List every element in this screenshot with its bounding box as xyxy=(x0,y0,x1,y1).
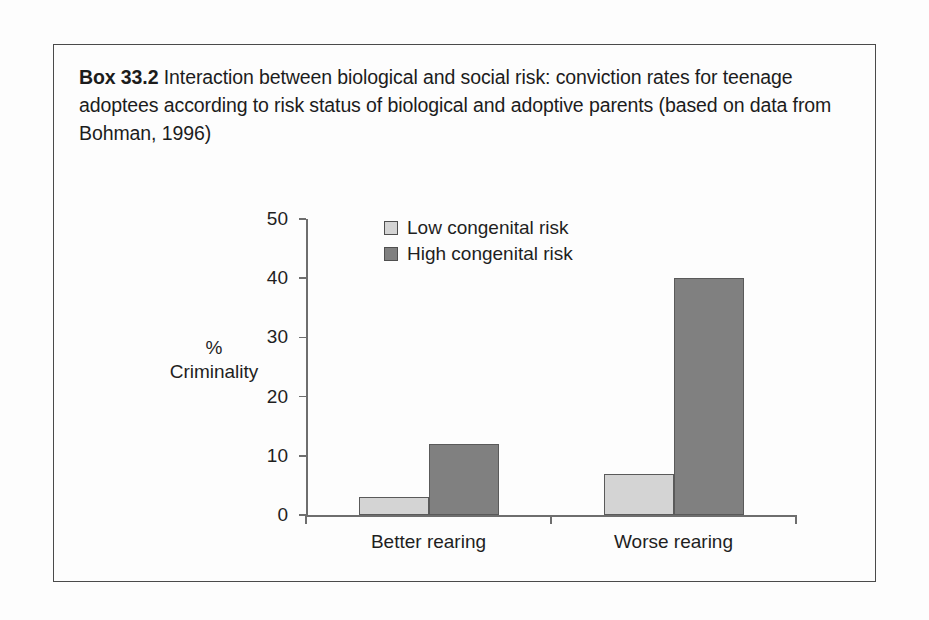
x-tick-1 xyxy=(550,515,552,524)
x-category-label-0: Better rearing xyxy=(371,531,486,553)
y-axis-line xyxy=(306,219,308,516)
legend-label-high-risk: High congenital risk xyxy=(407,243,573,265)
y-axis-title-line-1: % xyxy=(154,336,274,360)
legend-item-high-risk: High congenital risk xyxy=(384,241,573,267)
bar-chart: 01020304050 % Criminality Better rearing… xyxy=(54,45,877,583)
bar-worse-rearing-high-congenital-risk xyxy=(674,278,744,515)
y-tick-label-40: 40 xyxy=(244,267,288,289)
bar-better-rearing-high-congenital-risk xyxy=(429,444,499,515)
x-tick-0 xyxy=(305,515,307,524)
chart-legend: Low congenital risk High congenital risk xyxy=(384,215,573,267)
x-category-label-1: Worse rearing xyxy=(614,531,733,553)
y-axis-title-line-2: Criminality xyxy=(154,360,274,384)
y-tick-10 xyxy=(299,455,306,457)
bar-better-rearing-low-congenital-risk xyxy=(359,497,429,515)
legend-swatch-high-risk-icon xyxy=(384,247,398,261)
y-tick-30 xyxy=(299,337,306,339)
y-tick-label-0: 0 xyxy=(244,504,288,526)
bar-worse-rearing-low-congenital-risk xyxy=(604,474,674,515)
y-tick-label-50: 50 xyxy=(244,208,288,230)
legend-label-low-risk: Low congenital risk xyxy=(407,217,569,239)
y-tick-20 xyxy=(299,396,306,398)
x-tick-2 xyxy=(795,515,797,524)
y-tick-label-20: 20 xyxy=(244,386,288,408)
legend-item-low-risk: Low congenital risk xyxy=(384,215,573,241)
y-axis-title: % Criminality xyxy=(154,336,274,384)
y-tick-40 xyxy=(299,277,306,279)
box-figure-container: Box 33.2 Interaction between biological … xyxy=(53,44,876,582)
y-tick-label-10: 10 xyxy=(244,445,288,467)
y-tick-50 xyxy=(299,218,306,220)
legend-swatch-low-risk-icon xyxy=(384,221,398,235)
